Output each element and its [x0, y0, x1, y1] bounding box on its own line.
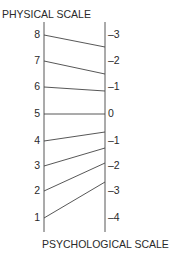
- physical-value-label: 1: [28, 211, 40, 223]
- psychological-value-label: 0: [108, 107, 114, 119]
- physical-value-label: 4: [28, 134, 40, 146]
- physical-value-label: 6: [28, 80, 40, 92]
- psychological-value-label: –1: [108, 80, 120, 92]
- scale-mapping-diagram: [0, 0, 173, 261]
- mapping-line: [44, 182, 105, 218]
- psychological-value-label: –2: [108, 54, 120, 66]
- physical-value-label: 5: [28, 107, 40, 119]
- psychological-value-label: –4: [108, 211, 120, 223]
- mapping-line: [44, 61, 105, 74]
- psychological-value-label: –3: [108, 28, 120, 40]
- psychological-scale-title: PSYCHOLOGICAL SCALE: [42, 238, 169, 250]
- mapping-line: [44, 163, 105, 191]
- psychological-value-label: –3: [108, 184, 120, 196]
- physical-value-label: 2: [28, 184, 40, 196]
- mapping-line: [44, 35, 105, 47]
- physical-value-label: 7: [28, 54, 40, 66]
- mapping-line: [44, 132, 105, 141]
- mapping-line: [44, 148, 105, 166]
- physical-value-label: 3: [28, 159, 40, 171]
- psychological-value-label: –2: [108, 159, 120, 171]
- mapping-line: [44, 87, 105, 91]
- psychological-value-label: –1: [108, 134, 120, 146]
- physical-value-label: 8: [28, 28, 40, 40]
